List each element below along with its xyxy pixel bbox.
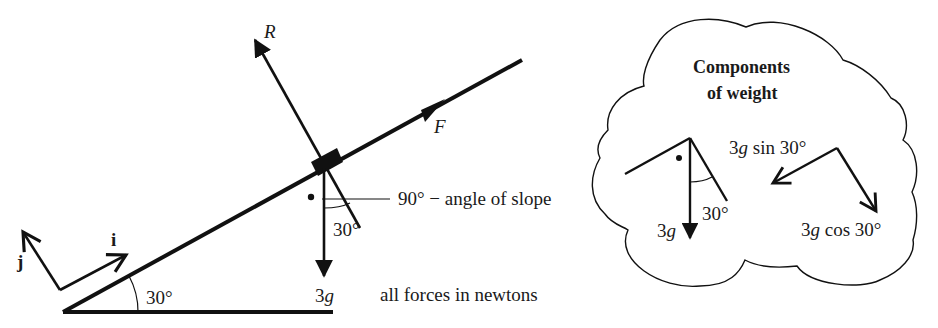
right-angle-dot	[308, 194, 314, 200]
cloud-weight-diagram: 30° 3g	[625, 138, 729, 241]
slope-line	[63, 60, 522, 312]
cloud-angle-arc	[690, 177, 712, 182]
force-diagram: 30° j i R F 3g 90° − angle of slope 30° …	[0, 0, 938, 328]
reaction-force-label: R	[263, 21, 276, 42]
units-note: all forces in newtons	[380, 284, 538, 305]
sin-component-label: 3g sin 30°	[729, 137, 806, 158]
slope-angle-label: 30°	[146, 287, 173, 308]
cloud-title-line2: of weight	[707, 83, 778, 103]
cloud-normal-line	[690, 138, 727, 201]
weight-label: 3g	[315, 285, 334, 306]
j-label: j	[16, 251, 23, 272]
cloud-right-angle-dot	[676, 155, 682, 161]
j-vector	[23, 232, 60, 290]
annotation-text: 90° − angle of slope	[398, 188, 551, 209]
cloud-angle-label: 30°	[702, 203, 729, 224]
unit-vectors: j i	[16, 229, 126, 290]
cloud-title-line1: Components	[693, 57, 790, 77]
cos-component-arrow	[837, 148, 876, 211]
weight-angle-label: 30°	[333, 219, 360, 240]
i-label: i	[111, 229, 116, 250]
slope-angle-arc	[129, 276, 138, 312]
cloud-weight-label: 3g	[657, 220, 676, 241]
cloud-components: 3g sin 30° 3g cos 30°	[729, 137, 881, 240]
cos-component-label: 3g cos 30°	[801, 219, 881, 240]
applied-force-label: F	[433, 116, 446, 137]
